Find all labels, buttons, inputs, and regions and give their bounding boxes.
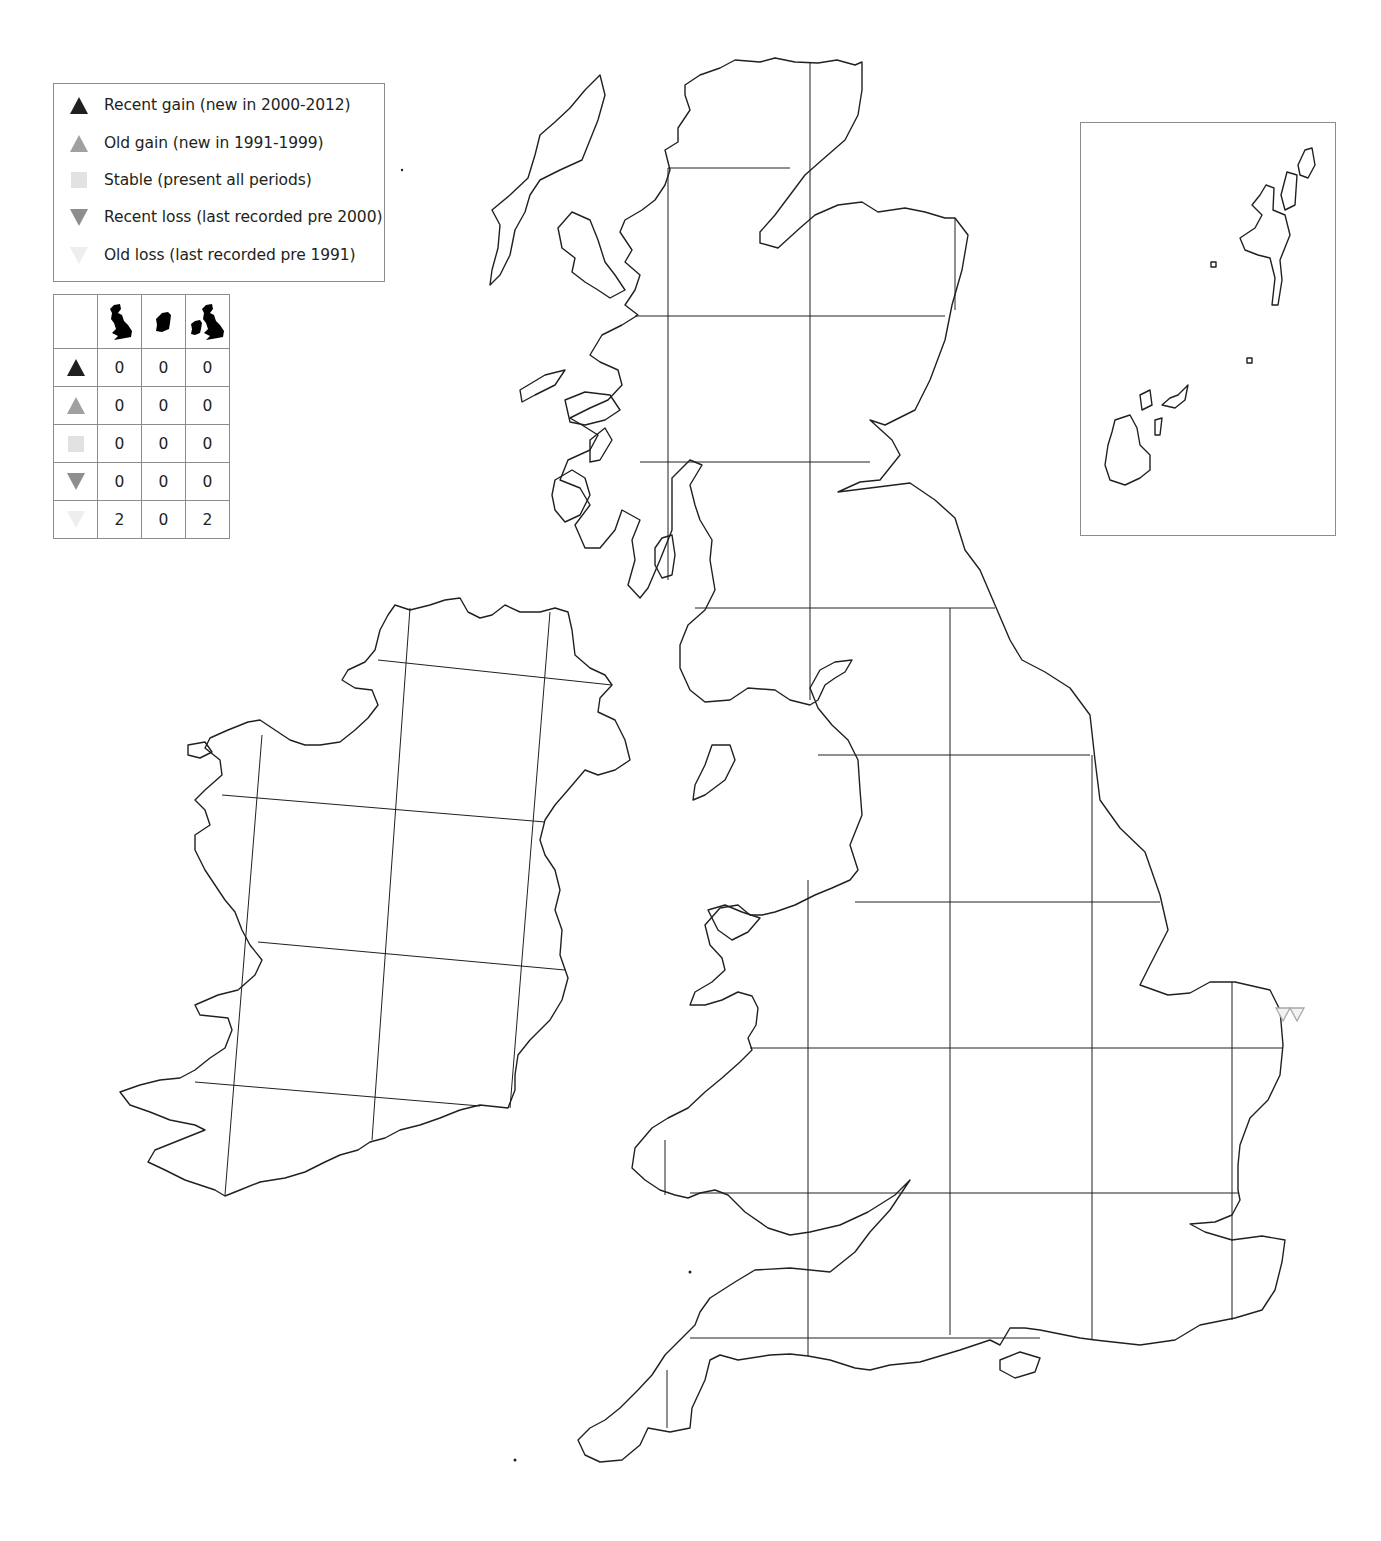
britain-and-ireland-silhouette-icon xyxy=(190,303,226,341)
old-loss-triangle-icon xyxy=(67,511,85,528)
count-cell: 0 xyxy=(142,425,186,463)
stable-square-icon xyxy=(71,172,87,188)
legend-item-old-loss: Old loss (last recorded pre 1991) xyxy=(54,240,355,270)
legend-label: Recent gain (new in 2000-2012) xyxy=(104,96,351,114)
ireland-coastline xyxy=(120,598,630,1196)
count-cell: 0 xyxy=(98,387,142,425)
count-row-old-gain: 0 0 0 xyxy=(54,387,230,425)
recent-gain-triangle-icon xyxy=(70,97,88,114)
recent-gain-triangle-icon xyxy=(67,359,85,376)
legend-item-old-gain: Old gain (new in 1991-1999) xyxy=(54,128,324,158)
count-cell: 0 xyxy=(186,425,230,463)
old-loss-marker xyxy=(1276,1008,1290,1021)
count-cell: 0 xyxy=(142,501,186,539)
old-loss-marker xyxy=(1290,1008,1304,1021)
ireland-column-header xyxy=(142,295,186,349)
isle-of-man-coastline xyxy=(693,745,735,800)
recent-loss-triangle-icon xyxy=(67,473,85,490)
count-cell: 2 xyxy=(186,501,230,539)
anglesey-coastline xyxy=(708,905,760,940)
recent-loss-triangle-icon xyxy=(70,209,88,226)
count-row-old-loss: 2 0 2 xyxy=(54,501,230,539)
count-cell: 0 xyxy=(142,349,186,387)
old-loss-triangle-icon xyxy=(70,247,88,264)
legend-label: Stable (present all periods) xyxy=(104,171,312,189)
count-cell: 0 xyxy=(98,349,142,387)
irish-grid-lines xyxy=(195,608,612,1195)
count-cell: 2 xyxy=(98,501,142,539)
count-cell: 0 xyxy=(142,387,186,425)
map-legend: Recent gain (new in 2000-2012) Old gain … xyxy=(53,83,385,282)
legend-item-stable: Stable (present all periods) xyxy=(54,165,312,195)
count-cell: 0 xyxy=(142,463,186,501)
count-row-recent-loss: 0 0 0 xyxy=(54,463,230,501)
scilly-islet xyxy=(514,1459,517,1462)
britain-and-ireland-column-header xyxy=(186,295,230,349)
outer-hebrides-coastline xyxy=(490,75,605,285)
lundy-islet xyxy=(689,1271,692,1274)
skye-coastline xyxy=(558,212,625,298)
old-gain-triangle-icon xyxy=(67,397,85,414)
count-cell: 0 xyxy=(186,463,230,501)
stable-square-icon xyxy=(68,436,84,452)
count-table: 0 0 0 0 0 0 0 0 0 0 0 0 2 0 2 xyxy=(53,294,230,539)
legend-label: Old loss (last recorded pre 1991) xyxy=(104,246,355,264)
northern-isles-inset-frame xyxy=(1080,122,1336,536)
coll-tiree-coastline xyxy=(520,370,565,402)
legend-item-recent-gain: Recent gain (new in 2000-2012) xyxy=(54,90,351,120)
isle-of-wight-coastline xyxy=(1000,1352,1040,1378)
legend-item-recent-loss: Recent loss (last recorded pre 2000) xyxy=(54,202,382,232)
legend-label: Recent loss (last recorded pre 2000) xyxy=(104,208,382,226)
st-kilda-islet xyxy=(401,169,403,171)
count-row-stable: 0 0 0 xyxy=(54,425,230,463)
great-britain-silhouette-icon xyxy=(106,303,134,341)
ireland-silhouette-icon xyxy=(154,311,174,333)
legend-label: Old gain (new in 1991-1999) xyxy=(104,134,324,152)
count-cell: 0 xyxy=(186,387,230,425)
britain-column-header xyxy=(98,295,142,349)
count-cell: 0 xyxy=(98,425,142,463)
count-cell: 0 xyxy=(186,349,230,387)
count-row-recent-gain: 0 0 0 xyxy=(54,349,230,387)
arran-coastline xyxy=(655,535,675,578)
count-table-header xyxy=(54,295,230,349)
empty-header-cell xyxy=(54,295,98,349)
count-cell: 0 xyxy=(98,463,142,501)
old-gain-triangle-icon xyxy=(70,135,88,152)
